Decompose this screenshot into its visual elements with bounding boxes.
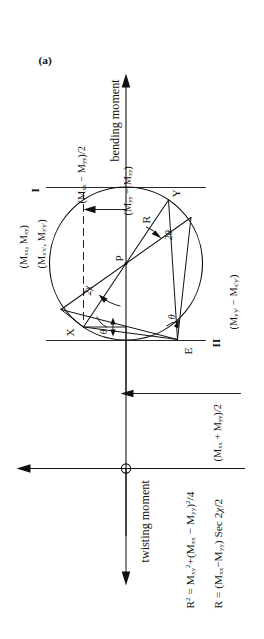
angle-two-chi-arrowhead (98, 294, 107, 303)
sub-xx: xx (217, 567, 225, 574)
coordinate-label-x-unprimed: (Mxx, Mxy) (18, 225, 29, 268)
coordinate-label-x-primed: (Mx′x′, Mx′y′) (36, 219, 47, 268)
angle-two-theta-label: 2θ (163, 230, 173, 240)
dimension-half-difference-label: (Mxx − Myy)/2 (76, 146, 87, 203)
point-y-label: Y (170, 189, 181, 197)
bending-moment-axis-label: bending moment (108, 79, 120, 161)
point-x-label: X (64, 328, 75, 336)
twisting-moment-axis-label: twisting moment (138, 480, 150, 562)
twisting-moment-baseline-arrowhead (121, 571, 130, 585)
chord-e-y-prime (177, 217, 191, 339)
chord-x-x-prime (61, 309, 84, 327)
coordinate-label-y-primed: (My′y′ − Mx′y′) (228, 274, 239, 329)
twisting-moment-arrowhead (16, 464, 30, 473)
figure-rotated-canvas: (a) bending moment twisting moment I II … (0, 0, 264, 639)
sub-xx: xx (215, 442, 222, 448)
angle-two-chi-label: 2χ (82, 285, 92, 295)
sub-yy: yy (79, 157, 86, 163)
angle-theta-upper-arrow-right (110, 317, 115, 324)
sup-2: 2 (183, 564, 191, 568)
sub-y-prime-y-prime: y′y′ (231, 307, 238, 316)
radius-label: R (140, 215, 151, 223)
angle-theta-upper-arrow-left (110, 329, 115, 336)
sup-2: 2 (183, 500, 191, 504)
sub-yy: yy (217, 544, 225, 551)
angle-theta-lower-label: θ (166, 314, 176, 319)
point-e-label: E (182, 347, 193, 354)
axis-ii-label: II (210, 338, 221, 347)
equation-radius-secant: R = (Mxx−Myy) Sec 2χ/2 (212, 498, 225, 608)
chi-symbol: χ (211, 507, 223, 512)
sub-x-prime-x-prime: x′x′ (39, 246, 46, 255)
mohr-circle-figure: (a) bending moment twisting moment I II … (0, 0, 264, 639)
sub-xy: xy (125, 169, 132, 175)
angle-theta-upper-label: θ (98, 329, 108, 334)
axis-i-label: I (29, 188, 40, 192)
sub-xy: xy (21, 228, 28, 234)
angle-arc-theta-upper (97, 317, 107, 327)
dimension-mean-label: (Mxx + Myy)/2 (212, 404, 223, 461)
figure-caption: (a) (38, 54, 51, 65)
sub-xx: xx (189, 537, 197, 544)
coordinate-label-y: (Myy − Mxy) (122, 166, 133, 215)
chord-e-x-prime (61, 309, 178, 339)
sub-x-prime-y-prime: x′y′ (231, 277, 238, 286)
sub-x-prime-y-prime: x′y′ (39, 222, 46, 231)
sub-yy: yy (189, 507, 197, 514)
dimension-half-difference-arrowhead (83, 205, 95, 213)
sub-xy: xy (189, 568, 197, 575)
sub-xx: xx (79, 184, 86, 190)
equation-radius-squared: R2 = Mxy2+(Mxx − Myy)2/4 (184, 491, 197, 608)
point-p-label: P (113, 255, 124, 261)
bending-moment-arrowhead (121, 73, 130, 87)
sub-yy: yy (215, 415, 222, 421)
sub-xx: xx (21, 249, 28, 255)
sub-yy: yy (125, 196, 132, 202)
angle-two-theta-arrowhead (151, 230, 161, 238)
